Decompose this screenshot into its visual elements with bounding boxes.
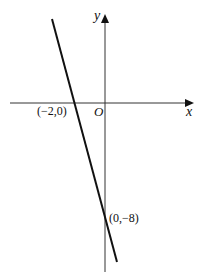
y-axis-arrow-icon [101, 14, 109, 23]
origin-label: O [94, 104, 104, 119]
x-intercept-label: (−2,0) [37, 104, 67, 118]
x-axis-label: x [185, 104, 193, 119]
coordinate-diagram: y x O (−2,0) (0,−8) [0, 0, 201, 280]
graph-line [52, 19, 117, 262]
y-axis-label: y [92, 8, 101, 23]
y-intercept-label: (0,−8) [109, 211, 139, 225]
y-axis [101, 14, 109, 272]
